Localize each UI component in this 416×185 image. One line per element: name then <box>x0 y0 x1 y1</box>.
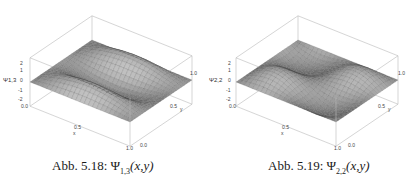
x-tick: 1.0 <box>334 145 341 151</box>
figure-caption-5-19: Abb. 5.19: Ψ2,2(x,y) <box>268 158 370 176</box>
y-tick: 0.5 <box>378 103 385 109</box>
y-tick: 1.0 <box>398 70 405 76</box>
z-tick: 1 <box>228 67 231 73</box>
x-axis-label: x <box>281 130 284 136</box>
z-axis-label: Ψ1,3 <box>3 77 16 83</box>
z-tick: 0 <box>20 77 23 83</box>
surface-plot-psi-1-3 <box>0 0 208 150</box>
figure-psi-1-3: Ψ1,3 2 1 0 -1 -2 0.0 0.5 1.0 x 0.0 0.5 1… <box>0 0 208 150</box>
z-tick: 2 <box>228 60 231 66</box>
x-tick: 1.0 <box>126 145 133 151</box>
y-axis-label: y <box>388 106 391 112</box>
surface-plot-psi-2-2 <box>206 0 414 150</box>
z-tick: 2 <box>20 60 23 66</box>
y-tick: 0.0 <box>348 142 355 148</box>
z-tick: 0 <box>228 77 231 83</box>
y-tick: 1.0 <box>190 70 197 76</box>
z-tick: -1 <box>18 87 22 93</box>
x-tick: 0.0 <box>229 103 236 109</box>
figure-caption-5-18: Abb. 5.18: Ψ1,3(x,y) <box>52 158 154 176</box>
figure-psi-2-2: Ψ2,2 2 1 0 -1 -2 0.0 0.5 1.0 x 0.0 0.5 1… <box>206 0 414 150</box>
y-axis-label: y <box>180 106 183 112</box>
z-tick: -2 <box>18 96 22 102</box>
x-tick: 0.0 <box>21 103 28 109</box>
z-tick: -2 <box>226 96 230 102</box>
z-axis-label: Ψ2,2 <box>209 77 222 83</box>
z-tick: 1 <box>20 67 23 73</box>
y-tick: 0.5 <box>170 103 177 109</box>
z-tick: -1 <box>226 87 230 93</box>
y-tick: 0.0 <box>140 142 147 148</box>
x-axis-label: x <box>73 130 76 136</box>
